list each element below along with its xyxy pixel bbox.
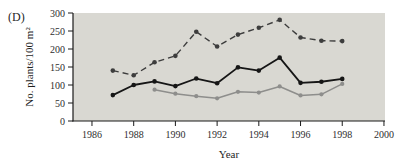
series-upper-dashed-point bbox=[152, 60, 157, 65]
series-middle-solid-black-point bbox=[236, 65, 241, 70]
series-upper-dashed-point bbox=[194, 29, 199, 34]
series-middle-solid-black-point bbox=[215, 81, 220, 86]
x-tick-label: 1996 bbox=[291, 129, 311, 140]
series-lower-solid-gray-point bbox=[278, 84, 282, 88]
series-middle-solid-black-point bbox=[111, 93, 116, 98]
series-middle-solid-black-point bbox=[257, 68, 262, 73]
series-middle-solid-black-point bbox=[131, 83, 136, 88]
x-tick-label: 1988 bbox=[124, 129, 144, 140]
y-axis-title: No. plants/100 m² bbox=[23, 27, 35, 107]
series-lower-solid-gray-point bbox=[173, 92, 177, 96]
series-upper-dashed-point bbox=[319, 38, 324, 43]
series-lower-solid-gray-point bbox=[152, 88, 156, 92]
series-lower-solid-gray-point bbox=[298, 93, 302, 97]
series-upper-dashed-point bbox=[236, 32, 241, 37]
series-lower-solid-gray-point bbox=[340, 82, 344, 86]
x-tick-label: 1986 bbox=[82, 129, 102, 140]
series-upper-dashed-point bbox=[257, 25, 262, 30]
y-tick-label: 50 bbox=[55, 98, 65, 109]
series-upper-dashed-point bbox=[340, 39, 345, 44]
x-axis-title: Year bbox=[219, 148, 240, 160]
x-tick-label: 1992 bbox=[207, 129, 227, 140]
line-chart: 0501001502002503001986198819901992199419… bbox=[0, 0, 399, 165]
series-middle-solid-black-point bbox=[194, 76, 199, 81]
series-upper-dashed-point bbox=[111, 68, 116, 73]
series-middle-solid-black-point bbox=[277, 55, 282, 60]
y-tick-label: 100 bbox=[50, 80, 65, 91]
series-middle-solid-black-point bbox=[173, 84, 178, 89]
series-lower-solid-gray-point bbox=[194, 94, 198, 98]
x-tick-label: 2000 bbox=[374, 129, 394, 140]
figure-panel-d: 0501001502002503001986198819901992199419… bbox=[0, 0, 399, 165]
series-middle-solid-black-point bbox=[319, 79, 324, 84]
series-lower-solid-gray-point bbox=[319, 92, 323, 96]
series-middle-solid-black-point bbox=[298, 81, 303, 86]
x-tick-label: 1990 bbox=[165, 129, 185, 140]
series-lower-solid-gray-point bbox=[215, 96, 219, 100]
x-tick-label: 1998 bbox=[332, 129, 352, 140]
y-tick-label: 0 bbox=[60, 116, 65, 127]
series-upper-dashed-point bbox=[131, 73, 136, 78]
series-upper-dashed-point bbox=[173, 54, 178, 59]
y-tick-label: 250 bbox=[50, 26, 65, 37]
y-tick-label: 200 bbox=[50, 44, 65, 55]
panel-label: (D) bbox=[8, 10, 25, 24]
series-upper-dashed-point bbox=[277, 18, 282, 23]
series-upper-dashed-point bbox=[215, 44, 220, 49]
series-lower-solid-gray-point bbox=[257, 90, 261, 94]
y-tick-label: 150 bbox=[50, 62, 65, 73]
series-lower-solid-gray-point bbox=[236, 90, 240, 94]
x-tick-label: 1994 bbox=[249, 129, 269, 140]
series-upper-dashed-point bbox=[298, 35, 303, 40]
y-tick-label: 300 bbox=[50, 8, 65, 19]
series-middle-solid-black-point bbox=[340, 77, 345, 82]
plot-area bbox=[73, 13, 385, 121]
series-middle-solid-black-point bbox=[152, 79, 157, 84]
